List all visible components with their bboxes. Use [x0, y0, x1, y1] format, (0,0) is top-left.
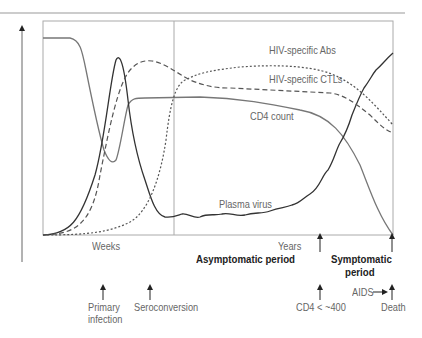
symptomatic-period-label-line1: Symptomatic	[331, 253, 392, 265]
asymptomatic-period-label: Asymptomatic period	[196, 253, 295, 265]
label-hiv-abs: HIV-specific Abs	[269, 44, 336, 56]
primary-infection-label-line2: infection	[88, 313, 122, 325]
label-cd4-count: CD4 count	[250, 110, 294, 122]
seroconversion-label: Seroconversion	[134, 301, 198, 313]
label-plasma-virus: Plasma virus	[219, 198, 272, 210]
abs-curve	[43, 66, 393, 235]
death-label: Death	[381, 301, 406, 313]
cd4-curve	[43, 38, 393, 235]
axis-label-weeks: Weeks	[92, 240, 120, 252]
symptomatic-period-label-line2: period	[345, 266, 375, 278]
axis-label-years: Years	[278, 240, 301, 252]
primary-infection-label-line1: Primary	[88, 301, 120, 313]
plot-frame	[43, 21, 393, 235]
ctls-curve	[43, 61, 393, 235]
cd4-threshold-label: CD4 < ~400	[296, 301, 346, 313]
aids-label: AIDS	[352, 286, 374, 298]
label-hiv-ctls: HIV-specific CTLs	[269, 73, 342, 85]
